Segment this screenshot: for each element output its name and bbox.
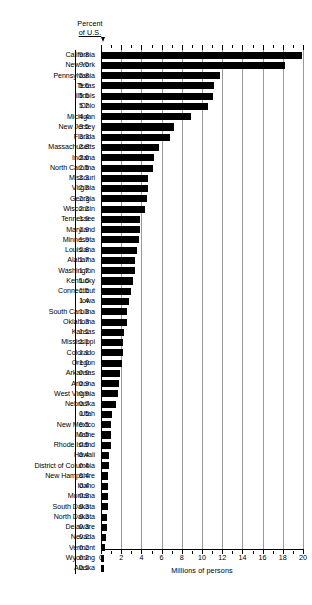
bar xyxy=(101,421,111,428)
bar xyxy=(101,216,140,223)
bar-row: Alabama1.7 xyxy=(0,255,312,265)
chart-header: Percent of U.S. xyxy=(62,20,118,37)
bar-row: Kentucky1.6 xyxy=(0,276,312,286)
bar-rows: California9.8New York9.0Pennsylvania5.8T… xyxy=(0,50,312,574)
label-divider xyxy=(75,399,76,409)
bar xyxy=(101,82,214,89)
label-divider xyxy=(75,183,76,193)
percent-value: 0.4 xyxy=(79,461,97,471)
label-divider xyxy=(75,163,76,173)
bar-row: Maine0.5 xyxy=(0,430,312,440)
x-tick-label: 20 xyxy=(293,553,312,562)
bar-row: Delaware0.3 xyxy=(0,522,312,532)
percent-value: 2.3 xyxy=(79,194,97,204)
minor-tick xyxy=(232,45,233,48)
label-divider xyxy=(75,153,76,163)
label-divider xyxy=(75,266,76,276)
bar xyxy=(101,483,108,490)
x-tick-label: 12 xyxy=(212,553,232,562)
bar xyxy=(101,206,145,213)
bar-row: Washington1.7 xyxy=(0,266,312,276)
bar-row: Kansas1.1 xyxy=(0,327,312,337)
bar xyxy=(101,452,109,459)
bar xyxy=(101,360,122,367)
percent-value: 0.5 xyxy=(79,409,97,419)
bar-row: Minnesota1.9 xyxy=(0,235,312,245)
minor-tick xyxy=(293,45,294,48)
minor-tick xyxy=(192,45,193,48)
percent-value: 0.5 xyxy=(79,440,97,450)
bar xyxy=(101,503,108,510)
percent-value: 0.3 xyxy=(79,491,97,501)
label-divider xyxy=(75,142,76,152)
label-divider xyxy=(75,358,76,368)
bar xyxy=(101,411,112,418)
bar-row: Utah0.5 xyxy=(0,409,312,419)
label-divider xyxy=(75,235,76,245)
bar-row: West Virginia0.9 xyxy=(0,389,312,399)
header-line-2: of U.S. xyxy=(62,29,118,38)
bar xyxy=(101,165,153,172)
percent-value: 0.7 xyxy=(79,399,97,409)
bar-row: Colorado1.1 xyxy=(0,348,312,358)
x-tick-label: 6 xyxy=(152,553,172,562)
bar-row: Massachusetts2.8 xyxy=(0,142,312,152)
bar-row: California9.8 xyxy=(0,50,312,60)
bar-row: Wisconsin2.2 xyxy=(0,204,312,214)
bar xyxy=(101,267,135,274)
bar-row: North Dakota0.3 xyxy=(0,512,312,522)
bar xyxy=(101,154,154,161)
label-divider xyxy=(75,348,76,358)
minor-tick xyxy=(253,45,254,48)
bar-row: Mississippi1.1 xyxy=(0,337,312,347)
minor-tick xyxy=(111,45,112,48)
bar xyxy=(101,113,191,120)
bar xyxy=(101,390,118,397)
bar-row: Michigan4.4 xyxy=(0,112,312,122)
bar xyxy=(101,514,107,521)
bar-row: Maryland1.9 xyxy=(0,225,312,235)
minor-tick xyxy=(172,45,173,48)
label-divider xyxy=(75,307,76,317)
bar-row: New Hampshire0.4 xyxy=(0,471,312,481)
label-divider xyxy=(75,276,76,286)
label-divider xyxy=(75,471,76,481)
minor-tick xyxy=(131,45,132,48)
percent-value: 1.0 xyxy=(79,358,97,368)
label-divider xyxy=(75,194,76,204)
percent-value: 9.0 xyxy=(79,60,97,70)
label-divider xyxy=(75,461,76,471)
bar-row: Nevada0.2 xyxy=(0,532,312,542)
percent-value: 4.4 xyxy=(79,112,97,122)
percent-value: 0.2 xyxy=(79,532,97,542)
label-divider xyxy=(75,317,76,327)
percent-value: 1.5 xyxy=(79,286,97,296)
bar xyxy=(101,544,105,551)
bar xyxy=(101,431,111,438)
percent-value: 1.9 xyxy=(79,214,97,224)
bar xyxy=(101,298,129,305)
bar-row: South Dakota0.3 xyxy=(0,502,312,512)
bar-row: North Carolina2.5 xyxy=(0,163,312,173)
x-tick-label: 8 xyxy=(172,553,192,562)
percent-value: 2.8 xyxy=(79,142,97,152)
percent-value: 3.3 xyxy=(79,132,97,142)
label-divider xyxy=(75,543,76,553)
bar-row: Connecticut1.5 xyxy=(0,286,312,296)
bar xyxy=(101,349,123,356)
percent-value: 2.2 xyxy=(79,204,97,214)
label-divider xyxy=(75,50,76,60)
label-divider xyxy=(75,173,76,183)
label-divider xyxy=(75,255,76,265)
bar xyxy=(101,308,127,315)
bar xyxy=(101,339,123,346)
percent-value: 1.8 xyxy=(79,245,97,255)
x-tick-label: 10 xyxy=(192,553,212,562)
bar xyxy=(101,62,285,69)
percent-value: 0.3 xyxy=(79,502,97,512)
label-divider xyxy=(75,132,76,142)
bar xyxy=(101,123,174,130)
bar-row: Georgia2.3 xyxy=(0,194,312,204)
percent-value: 1.1 xyxy=(79,348,97,358)
percent-value: 0.3 xyxy=(79,512,97,522)
